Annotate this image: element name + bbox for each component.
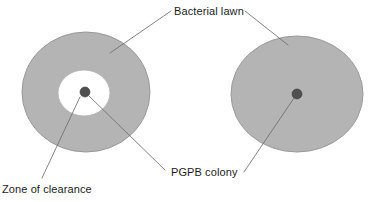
figure-container: Bacterial lawn PGPB colony Zone of clear… (0, 0, 381, 202)
label-pgpb-colony: PGPB colony (171, 166, 238, 179)
pgpb-colony-right (292, 89, 302, 99)
pgpb-colony-left (80, 87, 90, 97)
left-plate-group (22, 32, 150, 152)
label-bacterial-lawn: Bacterial lawn (174, 5, 244, 18)
leader-bacterial-lawn-right (245, 11, 288, 45)
right-plate-group (231, 36, 363, 152)
leader-bacterial-lawn-left (110, 11, 171, 53)
label-zone-of-clearance: Zone of clearance (2, 183, 92, 196)
